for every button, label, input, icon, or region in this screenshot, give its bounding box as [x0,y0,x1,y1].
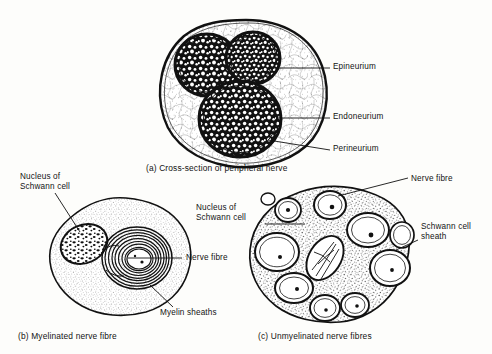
panel-a-artwork [150,10,350,185]
label-endoneurium: Endoneurium [333,112,383,123]
label-epineurium: Epineurium [333,62,376,73]
label-perineurium: Perineurium [333,144,379,155]
label-nucleus-schwann-b-line2: Schwann cell [20,182,70,193]
caption-panel-b: (b) Myelinated nerve fibre [18,331,117,341]
caption-panel-c: (c) Unmyelinated nerve fibres [258,331,372,341]
label-schwann-sheath-line2: sheath [421,232,446,243]
label-nucleus-schwann-b-line1: Nucleus of [20,172,60,183]
label-myelin-sheaths: Myelin sheaths [160,308,217,319]
nerve-structure-figure: Epineurium Endoneurium Perineurium (a) C… [0,0,492,354]
label-nerve-fibre-b: Nerve fibre [186,253,228,264]
label-nucleus-schwann-c-line1: Nucleus of [196,203,236,214]
axon-core-b [127,249,151,269]
label-nucleus-schwann-c-line2: Schwann cell [196,213,246,224]
label-schwann-sheath-line1: Schwann cell [421,222,471,233]
panel-c-artwork [240,178,420,330]
caption-panel-a: (a) Cross-section of peripheral nerve [146,163,287,173]
label-nerve-fibre-c: Nerve fibre [411,174,453,185]
